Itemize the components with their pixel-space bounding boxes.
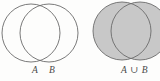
label-union: A ∪ B: [121, 66, 148, 76]
venn-diagram-union: A ∪ B: [0, 0, 160, 81]
venn-diagram-figure: A B A ∪ B: [0, 0, 160, 81]
